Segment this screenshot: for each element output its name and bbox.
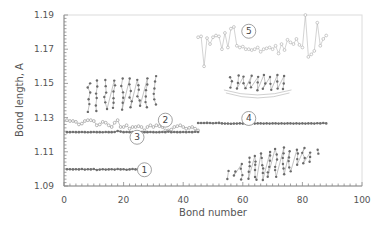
x-tick-label: 100: [353, 195, 370, 205]
y-tick-label: 1.15: [34, 78, 54, 88]
x-tick-label: 0: [61, 195, 67, 205]
y-axis-title: Bond length, A: [14, 63, 25, 137]
bond-length-chart: 0204060801001.091.111.131.151.171.19 Bon…: [0, 0, 384, 235]
x-tick-label: 80: [297, 195, 309, 205]
axis-ticks: [64, 15, 362, 186]
svg-text:4: 4: [246, 113, 252, 123]
y-tick-label: 1.17: [34, 44, 54, 54]
molecule-icon-diamond-like-slab: [226, 146, 319, 181]
molecule-icon-graphene-nanoribbon: [87, 75, 158, 113]
data-series: [66, 14, 328, 172]
x-tick-label: 40: [177, 195, 189, 205]
series-label-2: 2: [158, 113, 172, 127]
series-label-3: 3: [130, 130, 144, 144]
plot-area: [64, 15, 362, 186]
series-4: [197, 122, 328, 126]
y-tick-label: 1.19: [34, 10, 54, 20]
series-label-5: 5: [242, 24, 256, 38]
svg-text:3: 3: [134, 132, 140, 142]
x-tick-label: 60: [237, 195, 249, 205]
y-tick-label: 1.11: [34, 147, 54, 157]
x-tick-label: 20: [118, 195, 130, 205]
y-tick-label: 1.09: [34, 181, 54, 191]
tick-labels: 0204060801001.091.111.131.151.171.19: [34, 10, 371, 205]
molecule-icon-curved-fragment: [224, 74, 292, 98]
series-label-4: 4: [242, 111, 256, 125]
x-axis-title: Bond number: [179, 207, 248, 218]
series-label-1: 1: [137, 163, 151, 177]
svg-text:5: 5: [246, 26, 252, 36]
series-1: [66, 168, 140, 171]
svg-text:1: 1: [142, 165, 148, 175]
svg-text:2: 2: [162, 115, 168, 125]
series-5: [197, 14, 328, 68]
series-2: [66, 119, 200, 132]
y-tick-label: 1.13: [34, 113, 54, 123]
